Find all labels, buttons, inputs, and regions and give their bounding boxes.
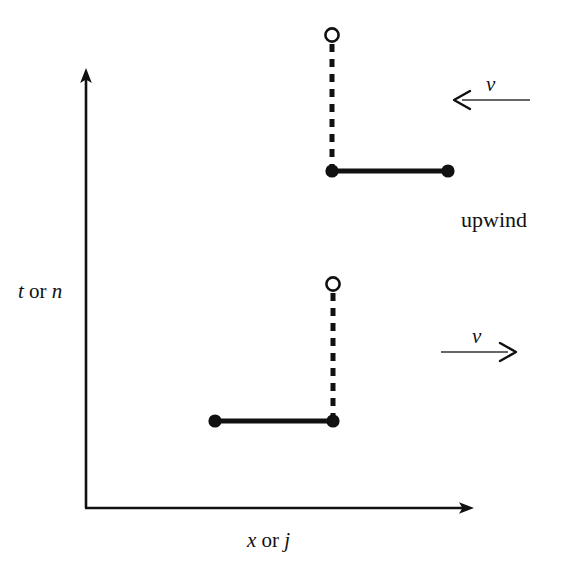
upwind-caption: upwind — [461, 209, 527, 231]
x-axis-label-conjunction: or — [256, 528, 284, 552]
upwind-scheme-figure: t or n x or j upwind v v — [0, 0, 570, 577]
upper-solid-node-left — [325, 164, 338, 177]
lower-stencil-group — [208, 277, 339, 427]
lower-open-node — [326, 277, 339, 290]
velocity-label-lower: v — [472, 326, 481, 347]
upper-open-node — [325, 28, 338, 41]
y-axis-label-variable-2: n — [52, 279, 63, 303]
velocity-label-upper: v — [486, 74, 495, 95]
axes-group — [80, 68, 474, 514]
x-axis-label: x or j — [247, 530, 290, 551]
x-axis-label-variable-2: j — [284, 528, 290, 552]
x-axis-label-variable-1: x — [247, 528, 256, 552]
lower-solid-node-right — [326, 414, 339, 427]
upper-stencil-group — [325, 28, 454, 177]
upper-solid-node-right — [441, 164, 454, 177]
figure-canvas — [0, 0, 570, 577]
y-axis-label: t or n — [18, 281, 62, 302]
lower-solid-node-left — [208, 414, 221, 427]
y-axis-label-conjunction: or — [24, 279, 52, 303]
